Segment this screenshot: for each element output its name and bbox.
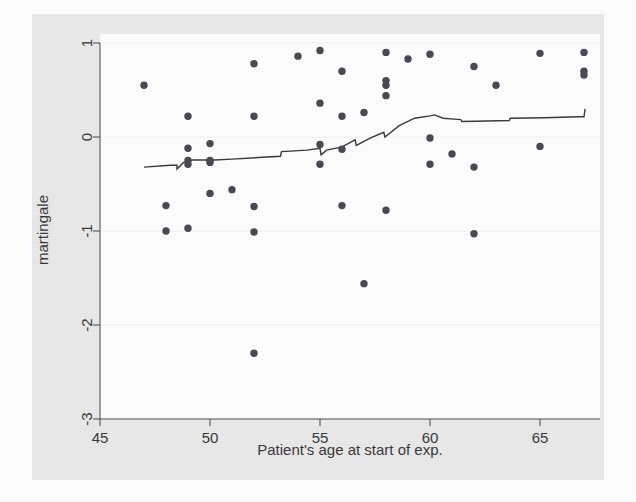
data-point [492,82,499,89]
data-point [470,163,477,170]
x-axis-ticks [100,419,540,426]
data-point [338,68,345,75]
scatter-markers [140,47,587,357]
x-tick-label: 50 [202,429,219,446]
grid-lines [100,43,600,419]
data-point [206,159,213,166]
data-point [316,99,323,106]
data-point [360,109,367,116]
data-point [162,202,169,209]
y-tick-label: -2 [78,318,95,331]
x-tick-label: 45 [92,429,109,446]
data-point [382,92,389,99]
data-point [382,49,389,56]
data-point [338,113,345,120]
data-point [382,82,389,89]
data-point [206,140,213,147]
data-point [316,161,323,168]
data-point [338,146,345,153]
data-point [316,47,323,54]
y-tick-label: -1 [78,224,95,237]
data-point [426,134,433,141]
data-point [360,280,367,287]
y-tick-label: 1 [78,39,95,47]
data-point [536,143,543,150]
x-tick-label: 65 [532,429,549,446]
data-point [228,186,235,193]
data-point [470,63,477,70]
y-axis-title: martingale [34,195,51,265]
data-point [206,190,213,197]
data-point [250,60,257,67]
data-point [250,203,257,210]
data-point [250,228,257,235]
data-point [184,113,191,120]
data-point [426,51,433,58]
data-point [338,202,345,209]
y-tick-label: 0 [78,133,95,141]
data-point [404,55,411,62]
data-point [426,161,433,168]
data-point [316,141,323,148]
data-point [382,207,389,214]
data-point [294,52,301,59]
data-point [536,50,543,57]
data-point [250,350,257,357]
data-point [580,49,587,56]
data-point [162,227,169,234]
data-point [184,224,191,231]
data-point [250,113,257,120]
figure-canvas: 10-1-2-34550556065 Patient's age at star… [0,0,636,502]
data-point [448,150,455,157]
x-axis-title: Patient's age at start of exp. [257,441,442,458]
scatter-plot-svg: 10-1-2-34550556065 Patient's age at star… [0,0,636,502]
data-point [184,145,191,152]
data-point [140,82,147,89]
data-point [580,71,587,78]
data-point [184,161,191,168]
data-point [470,230,477,237]
y-tick-label: -3 [78,412,95,425]
axis-tick-labels: 10-1-2-34550556065 [78,39,549,446]
